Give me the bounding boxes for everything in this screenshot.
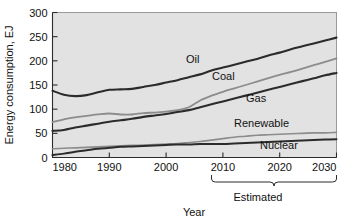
y-tick-label-100: 100: [29, 103, 47, 115]
y-axis-title: Energy consumption, EJ: [3, 25, 15, 144]
x-tick-label-2010: 2010: [211, 161, 235, 173]
y-tick-label-50: 50: [35, 127, 47, 139]
series-label-oil: Oil: [186, 53, 199, 65]
estimated-label: Estimated: [234, 191, 283, 203]
x-tick-label-2030: 2030: [312, 161, 336, 173]
x-axis-title: Year: [183, 206, 206, 218]
plot-area-background: [53, 13, 337, 158]
series-label-nuclear: Nuclear: [260, 139, 298, 151]
series-label-gas: Gas: [246, 92, 267, 104]
y-tick-label-0: 0: [41, 152, 47, 164]
x-tick-label-1980: 1980: [53, 161, 77, 173]
series-label-coal: Coal: [212, 70, 235, 82]
y-tick-label-200: 200: [29, 55, 47, 67]
chart-svg: 050100150200250300 198019902000201020202…: [0, 0, 357, 221]
y-tick-label-150: 150: [29, 79, 47, 91]
x-tick-label-1990: 1990: [97, 161, 121, 173]
series-label-renewable: Renewable: [234, 117, 289, 129]
energy-consumption-chart: 050100150200250300 198019902000201020202…: [0, 0, 357, 221]
y-tick-label-250: 250: [29, 31, 47, 43]
x-tick-label-2000: 2000: [154, 161, 178, 173]
y-tick-label-300: 300: [29, 7, 47, 19]
x-tick-label-2020: 2020: [267, 161, 291, 173]
